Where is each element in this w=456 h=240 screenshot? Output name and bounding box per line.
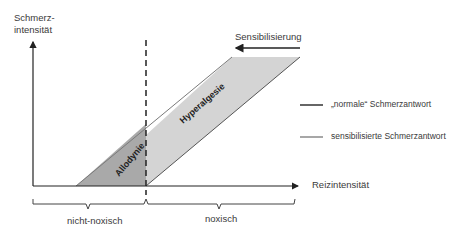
y-axis-label-line1: Schmerz- [14, 12, 55, 23]
bracket-noxisch [146, 199, 295, 209]
y-axis-label-line2: intensität [14, 24, 52, 35]
bracket-nicht-noxisch [33, 199, 146, 209]
pain-diagram: Allodynie Hyperalgesie [0, 0, 456, 240]
legend-normal-label: „normale“ Schmerzantwort [331, 99, 431, 109]
legend-sensitized-label: sensibilisierte Schmerzantwort [331, 131, 446, 141]
x-axis-label: Reizintensität [312, 179, 369, 190]
bracket-label-nicht-noxisch: nicht-noxisch [67, 215, 122, 226]
bracket-label-noxisch: noxisch [205, 213, 237, 224]
sensibilisierung-label: Sensibilisierung [235, 31, 302, 42]
